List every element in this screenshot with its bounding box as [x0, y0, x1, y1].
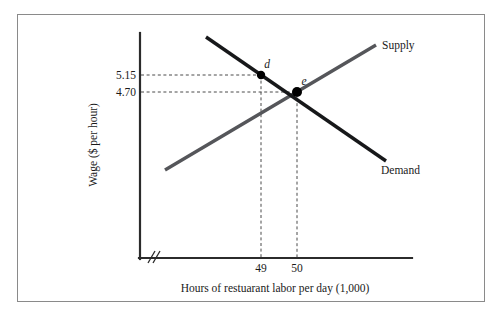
point-e-marker	[292, 87, 302, 97]
y-tick-label-4-70: 4.70	[116, 86, 136, 98]
point-e-label: e	[301, 75, 306, 87]
supply-curve	[165, 45, 376, 170]
y-axis-title: Wage ($ per hour)	[87, 103, 100, 187]
y-tick-label-5-15: 5.15	[116, 69, 136, 81]
supply-series-label: Supply	[382, 39, 415, 52]
x-tick-label-49: 49	[255, 262, 267, 274]
point-d-marker	[257, 71, 265, 79]
demand-series-label: Demand	[381, 164, 420, 176]
point-d-label: d	[264, 58, 270, 70]
figure-root: d e 5.15 4.70 49 50 Supply Demand Wage (…	[0, 0, 501, 318]
x-axis-title: Hours of restuarant labor per day (1,000…	[181, 282, 370, 295]
chart-canvas: d e 5.15 4.70 49 50 Supply Demand Wage (…	[0, 0, 501, 318]
x-tick-label-50: 50	[291, 262, 303, 274]
